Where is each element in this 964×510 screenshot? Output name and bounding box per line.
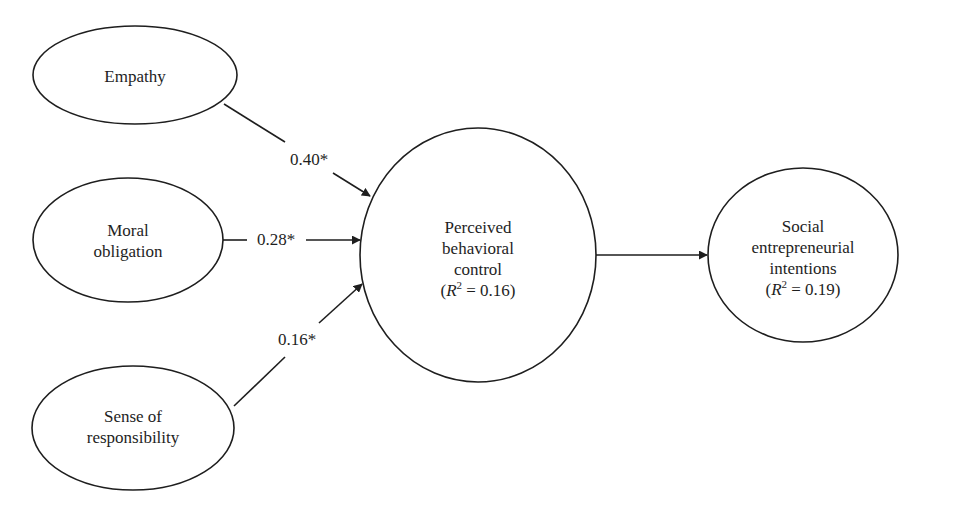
label-line: intentions [752, 258, 855, 279]
label-social-entrepreneurial-intentions: Social entrepreneurial intentions (R2 = … [752, 216, 855, 300]
label-line: responsibility [87, 427, 180, 448]
paren-close: ) [510, 281, 516, 300]
label-line: Perceived [440, 217, 515, 238]
r2-value: (R2 = 0.16) [440, 280, 515, 301]
label-line: entrepreneurial [752, 237, 855, 258]
r2-symbol: R [446, 281, 456, 300]
label-line: Social [752, 216, 855, 237]
label-empathy: Empathy [104, 66, 165, 87]
label-line: Empathy [104, 66, 165, 87]
r2-number: = 0.16 [466, 281, 510, 300]
r2-symbol: R [771, 280, 781, 299]
coefficient-sense-of-responsibility: 0.16* [276, 330, 318, 350]
label-line: control [440, 259, 515, 280]
label-line: obligation [94, 241, 163, 262]
r2-value: (R2 = 0.19) [752, 279, 855, 300]
label-sense-of-responsibility: Sense of responsibility [87, 406, 180, 448]
label-moral-obligation: Moral obligation [94, 220, 163, 262]
coefficient-empathy: 0.40* [288, 150, 330, 170]
label-perceived-behavioral-control: Perceived behavioral control (R2 = 0.16) [440, 217, 515, 301]
paren-close: ) [835, 280, 841, 299]
r2-exponent: 2 [782, 278, 788, 290]
label-line: Moral [94, 220, 163, 241]
label-line: Sense of [87, 406, 180, 427]
r2-exponent: 2 [457, 279, 463, 291]
label-line: behavioral [440, 238, 515, 259]
r2-number: = 0.19 [791, 280, 835, 299]
coefficient-moral-obligation: 0.28* [255, 230, 297, 250]
